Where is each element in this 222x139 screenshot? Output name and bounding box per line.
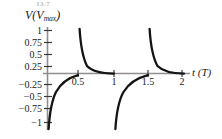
figure-container: 13.7 V(Vmax) t (T) 1 0.75 0.5 0.25 −0.25… [0,0,222,139]
curve-branch-4 [150,29,184,74]
curve-branch-1 [49,75,78,129]
curve-branch-2 [80,29,114,74]
curve-branch-3 [115,75,148,129]
plot-svg [0,0,222,139]
